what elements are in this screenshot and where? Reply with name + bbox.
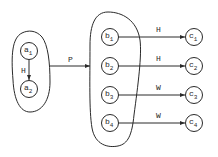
svg-text:c3: c3 bbox=[189, 89, 198, 101]
node-c4: c4 bbox=[186, 115, 203, 132]
node-c3: c3 bbox=[186, 87, 203, 104]
svg-text:c4: c4 bbox=[189, 117, 198, 129]
svg-text:a2: a2 bbox=[24, 83, 33, 95]
edge-b3-c3: W bbox=[119, 83, 186, 95]
svg-text:c1: c1 bbox=[189, 31, 198, 43]
svg-text:c2: c2 bbox=[189, 60, 198, 72]
node-b4: b4 bbox=[102, 115, 119, 132]
edge-a1-a2: H bbox=[21, 60, 29, 81]
edge-b1-c1: H bbox=[119, 25, 186, 37]
svg-text:a1: a1 bbox=[24, 45, 33, 57]
node-a2: a2 bbox=[21, 81, 38, 98]
svg-text:b2: b2 bbox=[105, 60, 114, 72]
node-b1: b1 bbox=[102, 29, 119, 46]
svg-text:H: H bbox=[156, 54, 161, 63]
node-c1: c1 bbox=[186, 29, 203, 46]
node-a1: a1 bbox=[21, 43, 38, 60]
svg-text:H: H bbox=[21, 66, 26, 75]
relation-diagram: a1 a2 H P b1 b2 b3 b4 H H W bbox=[0, 0, 218, 157]
node-b2: b2 bbox=[102, 58, 119, 75]
svg-text:b4: b4 bbox=[105, 117, 114, 129]
edge-b2-c2: H bbox=[119, 54, 186, 66]
svg-text:W: W bbox=[156, 83, 161, 92]
svg-text:P: P bbox=[68, 55, 73, 64]
svg-text:W: W bbox=[156, 111, 161, 120]
svg-text:b1: b1 bbox=[105, 31, 114, 43]
edge-b4-c4: W bbox=[119, 111, 186, 123]
mapping-arrow-p: P bbox=[50, 55, 90, 66]
svg-text:b3: b3 bbox=[105, 89, 114, 101]
node-b3: b3 bbox=[102, 87, 119, 104]
svg-text:H: H bbox=[156, 25, 161, 34]
set-b-boundary bbox=[90, 12, 141, 147]
node-c2: c2 bbox=[186, 58, 203, 75]
